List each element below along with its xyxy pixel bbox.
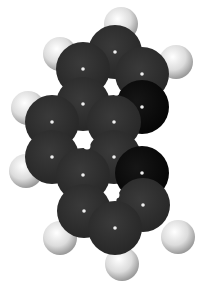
- atom-highlight-dot: [50, 120, 54, 124]
- atom-highlight-dot: [112, 120, 116, 124]
- atom-highlight-dot: [81, 67, 85, 71]
- atom-highlight-dot: [113, 226, 117, 230]
- atom-highlight-dot: [140, 171, 144, 175]
- atom-highlight-dot: [81, 102, 85, 106]
- atom-highlight-dot: [82, 209, 86, 213]
- atom-highlight-dot: [50, 155, 54, 159]
- atom-highlight-dot: [141, 203, 145, 207]
- ring-center-gap: [84, 143, 91, 150]
- atom-highlight-dot: [81, 173, 85, 177]
- atom-highlight-dot: [113, 50, 117, 54]
- atom-highlight-dot: [140, 105, 144, 109]
- atom-highlight-dot: [112, 155, 116, 159]
- hydrogen-atom: [161, 220, 195, 254]
- ring-center-gap: [113, 192, 120, 199]
- ring-center-gap: [113, 89, 120, 96]
- molecule-model: [0, 0, 204, 293]
- atom-highlight-dot: [140, 72, 144, 76]
